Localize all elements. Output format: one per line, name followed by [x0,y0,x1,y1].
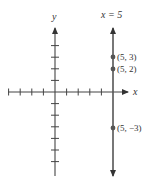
point-label-5-3: (5, 3) [117,52,137,62]
point-5-2 [111,67,116,72]
x-axis: x [8,86,138,97]
point-label-5-2: (5, 2) [117,64,137,74]
y-axis-label: y [51,11,57,22]
y-axis: y [51,11,59,176]
point-5-neg3 [111,126,116,131]
x-axis-label: x [132,86,138,97]
point-label-5-neg3: (5, −3) [117,123,142,133]
point-5-3 [111,55,116,60]
coordinate-plane: x y x = 5 (5, 3) (5, 2) (5, −3) [0,0,154,186]
line-label: x = 5 [100,9,122,20]
